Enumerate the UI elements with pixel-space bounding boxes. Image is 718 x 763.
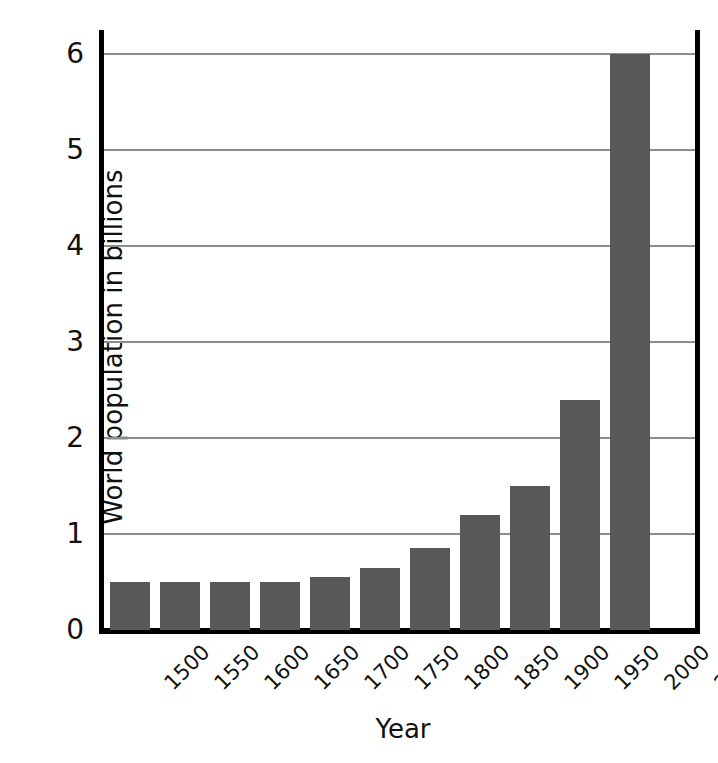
x-tick-label: 1900 [560, 640, 615, 695]
x-tick-label: 1750 [410, 640, 465, 695]
bar [360, 568, 400, 630]
y-tick-label: 5 [4, 136, 84, 164]
y-tick-label: 4 [4, 232, 84, 260]
x-tick-label: 1500 [160, 640, 215, 695]
bar-series [99, 30, 700, 634]
bar [560, 400, 600, 630]
x-tick-label: 2000 [660, 640, 715, 695]
y-tick-label: 3 [4, 328, 84, 356]
x-tick-label: 1850 [510, 640, 565, 695]
x-tick-label: 1550 [210, 640, 265, 695]
bar [110, 582, 150, 630]
bar [310, 577, 350, 630]
y-tick-label: 6 [4, 40, 84, 68]
x-tick-label: 1700 [360, 640, 415, 695]
bar-chart-figure: World population in billions 0123456 150… [0, 0, 718, 763]
x-tick-label: 1600 [260, 640, 315, 695]
x-tick-label: 2050 [710, 640, 718, 695]
y-tick-label: 2 [4, 424, 84, 452]
x-axis-title: Year [0, 714, 718, 744]
plot-frame [99, 30, 700, 634]
plot-area [99, 30, 700, 634]
x-axis-tick-labels: 1500155016001650170017501800185019001950… [99, 640, 700, 720]
bar [160, 582, 200, 630]
x-tick-label: 1650 [310, 640, 365, 695]
y-axis-tick-labels: 0123456 [0, 0, 92, 763]
bar [260, 582, 300, 630]
bar [410, 548, 450, 630]
y-tick-label: 1 [4, 520, 84, 548]
y-tick-label: 0 [4, 616, 84, 644]
bar [210, 582, 250, 630]
x-tick-label: 1950 [610, 640, 665, 695]
bar [510, 486, 550, 630]
x-tick-label: 1800 [460, 640, 515, 695]
bar [460, 515, 500, 630]
bar [610, 54, 650, 630]
